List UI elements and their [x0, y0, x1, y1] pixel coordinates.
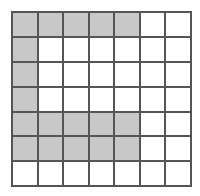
- grid-row: [12, 37, 191, 62]
- grid-cell-r6-c1[interactable]: [38, 161, 64, 186]
- grid-cell-r3-c0[interactable]: [12, 87, 38, 112]
- grid-cell-r1-c6[interactable]: [165, 37, 191, 62]
- grid-cell-r5-c3[interactable]: [89, 136, 115, 161]
- grid-cell-r6-c2[interactable]: [63, 161, 89, 186]
- grid-row: [12, 112, 191, 137]
- grid-row: [12, 62, 191, 87]
- grid-cell-r5-c0[interactable]: [12, 136, 38, 161]
- grid-cell-r3-c1[interactable]: [38, 87, 64, 112]
- grid-cell-r6-c4[interactable]: [114, 161, 140, 186]
- grid-cell-r1-c5[interactable]: [140, 37, 166, 62]
- grid-cell-r2-c5[interactable]: [140, 62, 166, 87]
- grid-row: [12, 87, 191, 112]
- grid-cell-r2-c0[interactable]: [12, 62, 38, 87]
- grid-cell-r0-c3[interactable]: [89, 12, 115, 37]
- grid-cell-r3-c5[interactable]: [140, 87, 166, 112]
- grid-cell-r2-c1[interactable]: [38, 62, 64, 87]
- grid-cell-r6-c6[interactable]: [165, 161, 191, 186]
- grid-cell-r3-c6[interactable]: [165, 87, 191, 112]
- grid-cell-r4-c6[interactable]: [165, 112, 191, 137]
- grid-cell-r6-c0[interactable]: [12, 161, 38, 186]
- grid-cell-r0-c5[interactable]: [140, 12, 166, 37]
- grid-cell-r0-c4[interactable]: [114, 12, 140, 37]
- grid-cell-r2-c4[interactable]: [114, 62, 140, 87]
- grid-row: [12, 161, 191, 186]
- grid-cell-r1-c3[interactable]: [89, 37, 115, 62]
- grid-cell-r6-c5[interactable]: [140, 161, 166, 186]
- grid-cell-r5-c5[interactable]: [140, 136, 166, 161]
- grid-cell-r1-c0[interactable]: [12, 37, 38, 62]
- grid-cell-r4-c5[interactable]: [140, 112, 166, 137]
- grid-cell-r0-c2[interactable]: [63, 12, 89, 37]
- grid-cell-r6-c3[interactable]: [89, 161, 115, 186]
- grid-cell-r2-c2[interactable]: [63, 62, 89, 87]
- grid-cell-r4-c2[interactable]: [63, 112, 89, 137]
- grid: [11, 11, 192, 187]
- grid-cell-r2-c6[interactable]: [165, 62, 191, 87]
- grid-cell-r0-c6[interactable]: [165, 12, 191, 37]
- grid-cell-r1-c4[interactable]: [114, 37, 140, 62]
- grid-cell-r4-c1[interactable]: [38, 112, 64, 137]
- grid-row: [12, 12, 191, 37]
- grid-cell-r5-c1[interactable]: [38, 136, 64, 161]
- grid-cell-r3-c4[interactable]: [114, 87, 140, 112]
- grid-cell-r4-c3[interactable]: [89, 112, 115, 137]
- grid-cell-r3-c2[interactable]: [63, 87, 89, 112]
- grid-cell-r1-c2[interactable]: [63, 37, 89, 62]
- grid-cell-r3-c3[interactable]: [89, 87, 115, 112]
- figure-root: [0, 0, 200, 196]
- grid-cell-r5-c6[interactable]: [165, 136, 191, 161]
- grid-body: [12, 12, 191, 186]
- grid-cell-r1-c1[interactable]: [38, 37, 64, 62]
- grid-cell-r5-c2[interactable]: [63, 136, 89, 161]
- grid-cell-r2-c3[interactable]: [89, 62, 115, 87]
- grid-cell-r5-c4[interactable]: [114, 136, 140, 161]
- grid-cell-r4-c4[interactable]: [114, 112, 140, 137]
- grid-cell-r0-c0[interactable]: [12, 12, 38, 37]
- grid-cell-r4-c0[interactable]: [12, 112, 38, 137]
- grid-cell-r0-c1[interactable]: [38, 12, 64, 37]
- grid-row: [12, 136, 191, 161]
